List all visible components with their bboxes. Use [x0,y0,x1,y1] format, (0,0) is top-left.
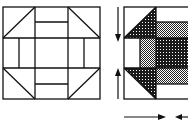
arrow-up-icon [115,68,121,99]
quilt-diagram [0,0,188,120]
arrow-down-icon [115,7,121,42]
arrow-left-icon [175,114,188,120]
light-strip-bottom [156,68,188,84]
corner-triangle-diagonal [3,68,35,99]
corner-triangle-diagonal [3,7,35,38]
right-block [124,7,188,99]
light-strip-top [156,22,188,38]
corner-triangle-diagonal [68,7,100,38]
left-block-border [3,7,100,99]
corner-triangle-diagonal [68,68,100,99]
arrow-right-icon [124,114,166,120]
dark-center [156,38,188,68]
light-strip-left [140,38,156,68]
left-block [3,7,100,99]
